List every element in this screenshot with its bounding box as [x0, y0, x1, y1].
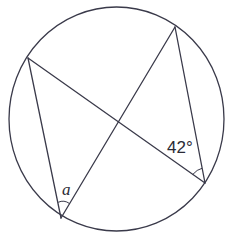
chord-top-right-to-bottom-left: [61, 27, 175, 218]
angle-42-label: 42°: [167, 138, 193, 157]
circle-diagram: 42° a: [0, 0, 232, 236]
chord-left-to-bottom-left: [28, 58, 61, 218]
chord-left-to-bottom-right: [28, 58, 205, 183]
circle: [9, 7, 224, 231]
angle-42-arc: [193, 168, 202, 174]
chord-top-right-to-bottom-right: [175, 27, 205, 183]
angle-a-arc: [58, 201, 69, 203]
angle-a-label: a: [62, 180, 71, 199]
